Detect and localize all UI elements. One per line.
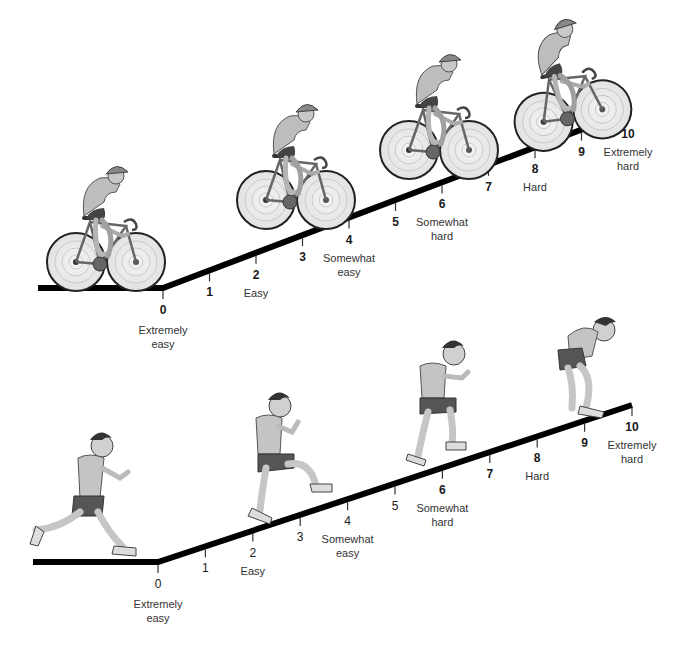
cyclist-figure-easy — [47, 166, 165, 291]
tick-label: Hard — [523, 181, 547, 193]
cyclist-figure-somewhat-hard — [380, 54, 498, 179]
tick-number: 3 — [299, 250, 306, 264]
tick-number: 3 — [297, 530, 304, 544]
tick-label: hard — [621, 453, 643, 465]
tick-label: hard — [617, 160, 639, 172]
tick-label: Easy — [241, 565, 266, 577]
tick-label: Extremely — [134, 598, 183, 610]
tick-number: 6 — [439, 483, 446, 497]
tick-number: 8 — [532, 162, 539, 176]
tick-number: 6 — [439, 197, 446, 211]
tick-number: 5 — [392, 215, 399, 229]
tick-label: Extremely — [604, 146, 653, 158]
tick-label: Extremely — [139, 324, 188, 336]
runner-figure-exhausted — [558, 317, 616, 418]
tick-number: 4 — [346, 233, 353, 247]
tick-label: hard — [431, 230, 453, 242]
tick-label: Somewhat — [323, 252, 375, 264]
runner-figure-climbing — [248, 392, 332, 524]
tick-label: easy — [337, 266, 361, 278]
tick-label: Somewhat — [416, 502, 468, 514]
rpe-diagram: 0Extremelyeasy12Easy34Somewhateasy56Some… — [0, 0, 692, 661]
tick-number: 2 — [249, 546, 256, 560]
tick-label: Easy — [244, 287, 269, 299]
tick-number: 0 — [160, 303, 167, 317]
tick-number: 0 — [155, 577, 162, 591]
tick-number: 10 — [625, 420, 639, 434]
tick-number: 5 — [392, 499, 399, 513]
cyclist-figure-hard — [495, 10, 636, 156]
cyclist-figure-moderate — [237, 104, 355, 229]
tick-number: 1 — [206, 285, 213, 299]
cycling-scale: 0Extremelyeasy12Easy34Somewhateasy56Some… — [38, 112, 653, 350]
tick-number: 2 — [253, 268, 260, 282]
tick-number: 9 — [578, 145, 585, 159]
tick-number: 9 — [581, 436, 588, 450]
tick-label: easy — [146, 612, 170, 624]
runner-figure-jogging — [30, 432, 136, 556]
running-scale: 0Extremelyeasy12Easy34Somewhateasy56Some… — [33, 405, 657, 624]
tick-number: 7 — [486, 467, 493, 481]
tick-label: Somewhat — [322, 533, 374, 545]
tick-label: Somewhat — [416, 216, 468, 228]
tick-label: easy — [336, 547, 360, 559]
tick-label: hard — [431, 516, 453, 528]
tick-label: Extremely — [608, 439, 657, 451]
tick-label: Hard — [525, 470, 549, 482]
runner-figure-striding — [406, 340, 468, 466]
tick-number: 7 — [485, 180, 492, 194]
tick-number: 1 — [202, 561, 209, 575]
tick-number: 8 — [534, 451, 541, 465]
tick-number: 4 — [344, 514, 351, 528]
tick-label: easy — [151, 338, 175, 350]
